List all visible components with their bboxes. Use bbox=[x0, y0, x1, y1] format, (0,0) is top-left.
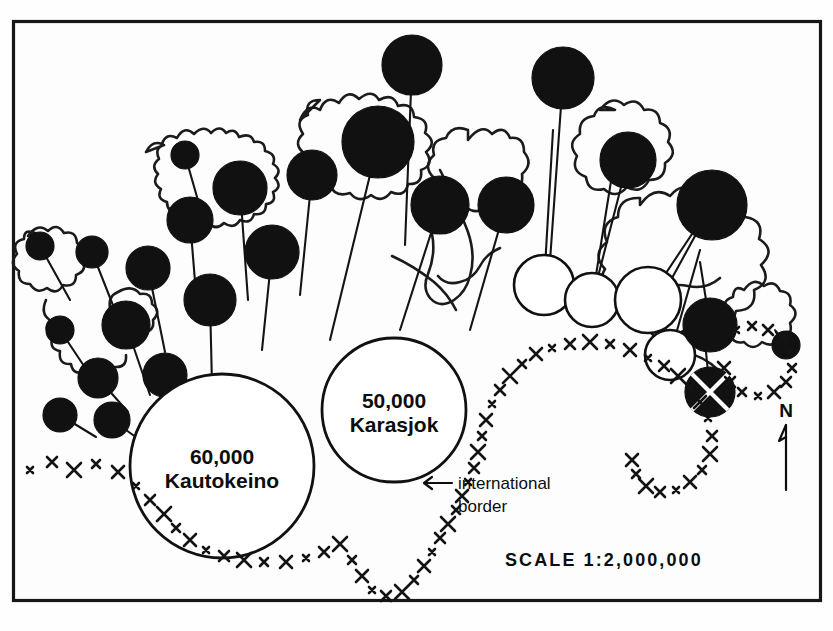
symbol-circle-filled bbox=[184, 274, 236, 326]
map-symbol-filled bbox=[600, 132, 656, 188]
map-symbol-filled bbox=[76, 236, 108, 268]
map-symbol-filled bbox=[184, 274, 236, 326]
map-symbol-filled bbox=[46, 316, 74, 344]
major-circle-karasjok: 50,000Karasjok bbox=[322, 338, 466, 482]
annotation-line-1: international bbox=[458, 474, 551, 493]
map-symbol-filled bbox=[382, 35, 442, 95]
map-canvas: 60,000Kautokeino50,000Karasjok internati… bbox=[0, 0, 833, 631]
map-symbol-filled bbox=[287, 150, 337, 200]
map-symbol-filled bbox=[342, 106, 414, 178]
symbol-circle-filled bbox=[411, 176, 469, 234]
major-circle-name: Karasjok bbox=[350, 413, 439, 436]
scale-statement: SCALE 1:2,000,000 bbox=[505, 550, 703, 570]
symbol-circle-filled bbox=[600, 132, 656, 188]
symbol-circle-filled bbox=[287, 150, 337, 200]
map-symbol-filled bbox=[102, 301, 150, 349]
symbol-circle-filled bbox=[126, 246, 170, 290]
symbol-circle-open bbox=[565, 273, 619, 327]
symbol-circle-filled bbox=[245, 225, 299, 279]
map-symbol-open bbox=[615, 267, 681, 333]
major-circle-kautokeino: 60,000Kautokeino bbox=[130, 374, 314, 558]
map-symbol-filled bbox=[26, 232, 54, 260]
symbol-circle-filled bbox=[167, 197, 213, 243]
symbol-circle-filled bbox=[78, 358, 118, 398]
symbol-circle-filled bbox=[382, 35, 442, 95]
map-symbol-filled bbox=[126, 246, 170, 290]
map-symbol-filled bbox=[43, 398, 77, 432]
map-symbol-filled bbox=[245, 225, 299, 279]
map-symbol-filled bbox=[532, 47, 594, 109]
north-arrow-letter: N bbox=[779, 400, 793, 421]
symbol-circle-filled bbox=[102, 301, 150, 349]
map-symbol-filled bbox=[94, 402, 130, 438]
map-symbol-filled bbox=[171, 141, 199, 169]
symbol-circle-filled bbox=[342, 106, 414, 178]
major-circle-value: 50,000 bbox=[362, 389, 426, 412]
symbol-circle-filled bbox=[76, 236, 108, 268]
symbol-circle-open bbox=[615, 267, 681, 333]
map-symbol-filled bbox=[683, 298, 737, 352]
symbol-circle-filled bbox=[26, 232, 54, 260]
symbol-circle-filled bbox=[683, 298, 737, 352]
symbol-circle-filled bbox=[94, 402, 130, 438]
symbol-circle-filled bbox=[478, 177, 534, 233]
map-symbol-filled bbox=[213, 161, 267, 215]
symbol-circle-filled bbox=[46, 316, 74, 344]
symbol-circle-filled bbox=[171, 141, 199, 169]
major-circle-name: Kautokeino bbox=[165, 469, 279, 492]
map-symbol-filled bbox=[677, 170, 747, 240]
major-circle-value: 60,000 bbox=[190, 445, 254, 468]
symbol-circle-filled bbox=[43, 398, 77, 432]
symbol-circle-filled bbox=[532, 47, 594, 109]
map-symbol-filled bbox=[167, 197, 213, 243]
map-symbol-filled bbox=[411, 176, 469, 234]
map-symbol-open bbox=[565, 273, 619, 327]
map-symbol-filled bbox=[78, 358, 118, 398]
symbol-circle-filled bbox=[213, 161, 267, 215]
map-figure: 60,000Kautokeino50,000Karasjok internati… bbox=[0, 0, 833, 631]
symbol-circle-filled bbox=[677, 170, 747, 240]
annotation-line-2: border bbox=[458, 497, 507, 516]
map-symbol-filled bbox=[478, 177, 534, 233]
